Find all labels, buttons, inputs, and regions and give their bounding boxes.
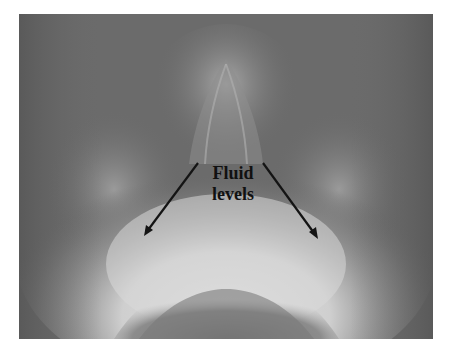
xray-image: Fluid levels	[19, 14, 433, 339]
xray-rendering	[19, 14, 433, 339]
